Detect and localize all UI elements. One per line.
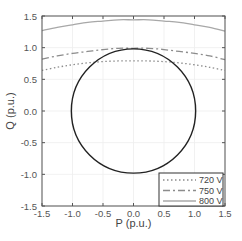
pq-capability-chart: -1.5-1.0-0.50.00.51.01.51.51.00.50.0-0.5… <box>0 0 242 241</box>
legend-label: 800 V <box>199 196 223 206</box>
y-tick-label: 1.5 <box>24 11 37 22</box>
y-tick-label: -0.5 <box>21 137 37 148</box>
legend-label: 750 V <box>199 186 223 196</box>
x-tick-label: -1.0 <box>64 208 80 219</box>
y-tick-label: 0.5 <box>24 74 37 85</box>
x-axis-label: P (p.u.) <box>116 217 152 229</box>
x-tick-label: 0.5 <box>157 208 170 219</box>
legend-label: 720 V <box>199 175 223 185</box>
y-tick-label: -1.5 <box>21 201 37 212</box>
y-tick-label: 0.0 <box>24 106 37 117</box>
y-axis-label: Q (p.u.) <box>4 92 16 129</box>
y-tick-label: -1.0 <box>21 169 37 180</box>
y-tick-label: 1.0 <box>24 42 37 53</box>
x-tick-label: 1.5 <box>218 208 231 219</box>
legend: 720 V750 V800 V <box>159 173 223 206</box>
x-tick-label: 1.0 <box>188 208 201 219</box>
x-tick-label: -0.5 <box>95 208 111 219</box>
